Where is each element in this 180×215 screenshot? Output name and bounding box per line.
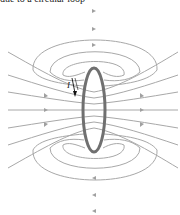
magnetic-field-diagram: I	[0, 0, 180, 215]
bottom-field-loops	[33, 134, 157, 213]
